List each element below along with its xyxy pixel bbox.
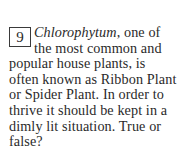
question-number-box: 9 <box>9 27 31 47</box>
question-text: , one of the most common and popular hou… <box>9 24 176 149</box>
quiz-question: 9 Chlorophytum, one of the most common a… <box>9 25 177 150</box>
plant-genus-name: Chlorophytum <box>34 24 117 40</box>
